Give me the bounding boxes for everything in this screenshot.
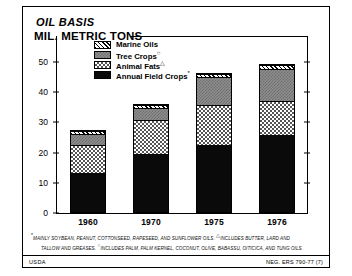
bar-segment-animal (197, 105, 231, 144)
y-tick-mark-right (304, 122, 310, 123)
x-tick-label: 1960 (70, 217, 106, 227)
chart-title-oil-basis: OIL BASIS (36, 16, 94, 28)
x-tick-label: 1976 (259, 217, 295, 227)
bar-segment-animal (260, 101, 294, 136)
legend-label-field: Annual Field Crops* (116, 69, 190, 81)
y-tick-mark-right (304, 182, 310, 183)
bar-segment-marine (134, 105, 168, 108)
legend-footnote-mark-animal: △ (160, 60, 165, 66)
x-tick-label: 1975 (196, 217, 232, 227)
bar-segment-tree (134, 108, 168, 120)
bar-segment-field (197, 145, 231, 213)
legend-item-field: Annual Field Crops* (94, 70, 214, 80)
y-tick-label: 50 (32, 57, 48, 67)
y-tick-mark (53, 182, 59, 183)
bar-stack (133, 104, 169, 213)
y-tick-mark (53, 152, 59, 153)
y-axis-line (56, 36, 57, 214)
footnote-text-2: TALLOW AND GREASES. (41, 246, 96, 251)
bar-segment-tree (260, 69, 294, 101)
footnote-text-2b: INCLUDES PALM, PALM KERNEL, COCONUT, OLI… (100, 246, 302, 251)
y-tick-mark-right (304, 92, 310, 93)
legend-swatch-field (94, 71, 111, 79)
bar-segment-animal (71, 145, 105, 173)
y-tick-mark (53, 122, 59, 123)
bar-segment-marine (71, 131, 105, 134)
y-tick-mark (53, 62, 59, 63)
chart-legend: Marine OilsTree Crops○Animal Fats△Annual… (94, 40, 214, 80)
top-border-rule (130, 36, 308, 37)
legend-swatch-tree (94, 51, 111, 59)
bar-segment-animal (134, 120, 168, 153)
footnote-text-1b: INCLUDES BUTTER, LARD AND (220, 236, 290, 241)
source-label: USDA (29, 259, 46, 265)
legend-swatch-animal (94, 61, 111, 69)
legend-label-marine: Marine Oils (116, 40, 158, 49)
footnote-line-1: *MAINLY SOYBEAN, PEANUT, COTTONSEED, RAP… (31, 232, 323, 242)
legend-footnote-mark-tree: ○ (157, 50, 161, 56)
y-tick-mark-right (304, 152, 310, 153)
footnote-text-1: MAINLY SOYBEAN, PEANUT, COTTONSEED, RAPE… (33, 236, 215, 241)
bar-stack (70, 130, 106, 213)
bar-stack (259, 64, 295, 213)
bar-segment-field (260, 135, 294, 213)
y-tick-label: 10 (32, 178, 48, 188)
y-tick-label: 20 (32, 148, 48, 158)
legend-footnote-mark-field: * (187, 70, 189, 76)
chart-footnotes: *MAINLY SOYBEAN, PEANUT, COTTONSEED, RAP… (31, 232, 323, 252)
y-tick-mark-right (304, 62, 310, 63)
bar-segment-marine (260, 65, 294, 70)
x-axis-line (56, 213, 308, 214)
bar-segment-tree (197, 77, 231, 106)
footnote-line-2: TALLOW AND GREASES. ○INCLUDES PALM, PALM… (31, 242, 323, 252)
bar-segment-field (71, 173, 105, 213)
bar-segment-tree (71, 134, 105, 145)
bar-segment-field (134, 154, 168, 213)
chart-footer-bar: USDA NEG. ERS 790-77 (7) (22, 255, 330, 268)
legend-swatch-marine (94, 41, 111, 49)
right-axis-line (307, 36, 308, 214)
y-tick-label: 40 (32, 87, 48, 97)
negative-number-label: NEG. ERS 790-77 (7) (266, 259, 323, 265)
y-tick-mark (53, 92, 59, 93)
bar-stack (196, 73, 232, 213)
y-tick-label: 0 (32, 208, 48, 218)
y-tick-mark (53, 213, 59, 214)
chart-figure: OIL BASIS MIL. METRIC TONS 01020304050 1… (0, 0, 352, 276)
x-tick-label: 1970 (133, 217, 169, 227)
y-tick-label: 30 (32, 117, 48, 127)
